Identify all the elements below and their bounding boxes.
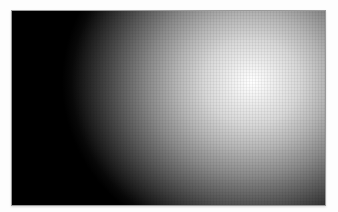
radial-gradient-image bbox=[11, 10, 326, 206]
image-canvas bbox=[0, 0, 338, 212]
halftone-texture bbox=[12, 11, 325, 205]
